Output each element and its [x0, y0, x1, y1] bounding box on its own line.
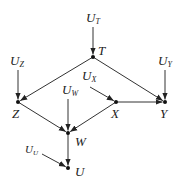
- node-label-x: X: [110, 106, 120, 121]
- exogenous-label-ut: UT: [86, 10, 100, 26]
- edge-uu-to-u: [42, 154, 66, 167]
- exogenous-label-uz: UZ: [10, 53, 24, 69]
- causal-diagram: TZXYWUUTUZUYUXUWUU: [0, 0, 182, 184]
- node-w: [66, 131, 70, 135]
- node-label-u: U: [75, 164, 86, 179]
- edges: [18, 27, 165, 167]
- node-x: [114, 100, 118, 104]
- diagram-svg: TZXYWUUTUZUYUXUWUU: [0, 0, 182, 184]
- node-y: [163, 100, 167, 104]
- node-u: [66, 166, 70, 170]
- exogenous-label-uy: UY: [158, 53, 173, 69]
- labels: TZXYWUUTUZUYUXUWUU: [10, 10, 173, 179]
- exogenous-label-uw: UW: [62, 82, 79, 98]
- node-t: [91, 55, 95, 59]
- node-label-z: Z: [12, 106, 20, 121]
- node-label-w: W: [75, 134, 87, 149]
- edge-x-to-w: [70, 102, 116, 132]
- exogenous-label-ux: UX: [82, 68, 97, 84]
- edge-ux-to-x: [90, 87, 114, 101]
- node-label-y: Y: [160, 106, 169, 121]
- node-z: [16, 100, 20, 104]
- nodes: [16, 55, 167, 170]
- exogenous-label-uu: UU: [25, 143, 39, 157]
- edge-z-to-w: [18, 102, 66, 132]
- edge-t-to-y: [93, 57, 163, 101]
- node-label-t: T: [98, 43, 106, 58]
